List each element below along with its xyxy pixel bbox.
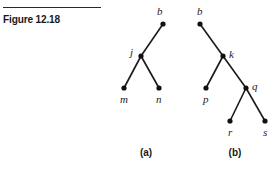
node-label-m: m xyxy=(120,93,128,105)
edge-b-j xyxy=(141,24,163,56)
node-n xyxy=(156,85,161,90)
node-label-b: b xyxy=(197,5,203,17)
node-label-p: p xyxy=(202,93,209,105)
node-label-k: k xyxy=(229,48,235,60)
node-m xyxy=(121,85,126,90)
node-b xyxy=(197,21,202,26)
tree-diagrams: bjmn(a)bkpqrs(b) xyxy=(0,0,276,173)
node-label-q: q xyxy=(252,80,258,92)
node-label-b: b xyxy=(157,5,163,17)
node-label-r: r xyxy=(228,126,233,138)
node-label-j: j xyxy=(128,46,133,58)
subfigure-caption: (b) xyxy=(229,147,242,158)
node-r xyxy=(227,118,232,123)
node-s xyxy=(262,118,267,123)
node-q xyxy=(243,85,248,90)
edge-q-r xyxy=(230,88,246,121)
node-label-n: n xyxy=(156,93,162,105)
node-j xyxy=(138,53,143,58)
tree-a: bjmn(a) xyxy=(120,5,166,158)
node-p xyxy=(203,85,208,90)
edge-j-m xyxy=(124,56,141,88)
edge-j-n xyxy=(141,56,159,88)
tree-b: bkpqrs(b) xyxy=(197,5,268,158)
edge-k-q xyxy=(223,56,246,88)
edge-k-p xyxy=(206,56,223,88)
edge-q-s xyxy=(246,88,265,121)
node-b xyxy=(160,21,165,26)
node-k xyxy=(220,53,225,58)
node-label-s: s xyxy=(263,126,267,138)
subfigure-caption: (a) xyxy=(140,147,152,158)
edge-b-k xyxy=(200,24,223,56)
